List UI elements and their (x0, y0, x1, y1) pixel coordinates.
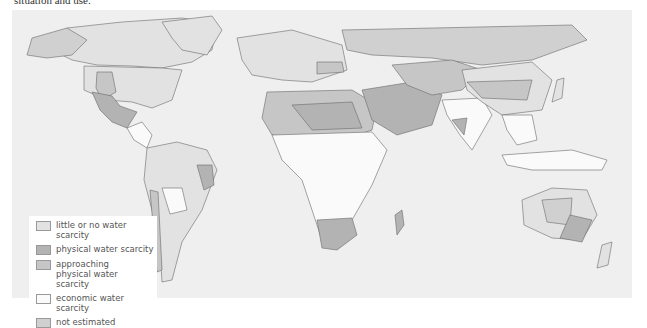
region-japan (552, 78, 564, 102)
region-indonesia (502, 150, 607, 170)
caption-fragment: situation and use. (14, 0, 91, 6)
region-ukraine (317, 62, 344, 74)
legend-label: not estimated (56, 317, 115, 327)
legend-item-economic: economic water scarcity (36, 293, 157, 313)
legend-item-not-estimated: not estimated (36, 317, 157, 328)
region-central-america (127, 122, 152, 148)
legend-swatch (36, 318, 51, 328)
legend-swatch (36, 245, 51, 255)
legend-item-little-or-no: little or no water scarcity (36, 220, 157, 240)
region-madagascar (395, 210, 404, 235)
legend-item-approaching-physical: approaching physical water scarcity (36, 259, 157, 289)
world-map: little or no water scarcity physical wat… (12, 10, 632, 298)
legend-swatch (36, 294, 51, 304)
region-india (442, 98, 492, 150)
legend-swatch (36, 260, 51, 270)
legend: little or no water scarcity physical wat… (29, 216, 157, 303)
region-europe (237, 30, 347, 82)
region-south-africa (317, 218, 357, 250)
region-russia (342, 25, 587, 65)
legend-label: approaching physical water scarcity (56, 259, 146, 289)
legend-label: little or no water scarcity (56, 220, 157, 240)
legend-item-physical: physical water scarcity (36, 244, 157, 255)
region-new-zealand (597, 242, 612, 268)
region-southeast-asia (502, 115, 537, 145)
legend-label: economic water scarcity (56, 293, 157, 313)
legend-label: physical water scarcity (56, 244, 153, 254)
legend-swatch (36, 221, 51, 231)
